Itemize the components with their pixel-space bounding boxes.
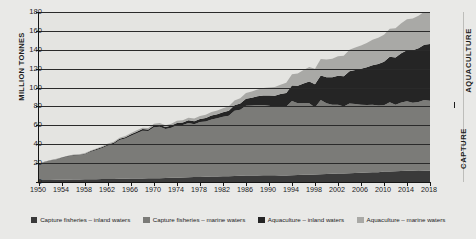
gridline: [39, 125, 430, 126]
x-axis-line: [38, 182, 430, 183]
gridline: [39, 144, 430, 145]
y-tick-label: 100: [18, 84, 42, 92]
gridline: [39, 163, 430, 164]
legend-swatch: [357, 217, 364, 224]
gridline: [39, 88, 430, 89]
legend-swatch: [258, 217, 265, 224]
y-tick-label: 120: [18, 65, 42, 73]
gridline: [39, 69, 430, 70]
chart-legend: Capture fisheries – inland watersCapture…: [0, 212, 476, 228]
y-tick-label: 40: [18, 140, 42, 148]
legend-item[interactable]: Capture fisheries – inland waters: [31, 217, 131, 224]
side-label-aquaculture: AQUACULTURE: [464, 18, 473, 104]
y-tick-label: 60: [18, 121, 42, 129]
gridline: [39, 50, 430, 51]
legend-label: Capture fisheries – marine waters: [153, 217, 246, 223]
side-label-separator: [454, 102, 455, 108]
area-series: [39, 100, 430, 180]
legend-label: Capture fisheries – inland waters: [40, 217, 130, 223]
y-tick-label: 80: [18, 102, 42, 110]
legend-swatch: [31, 217, 38, 224]
legend-item[interactable]: Aquaculture – inland waters: [258, 217, 344, 224]
x-tick-label: 2018: [416, 186, 442, 193]
legend-item[interactable]: Aquaculture – marine waters: [357, 217, 445, 224]
y-tick-label: 140: [18, 46, 42, 54]
y-tick-label: 160: [18, 27, 42, 35]
gridline: [39, 31, 430, 32]
legend-label: Aquaculture – marine waters: [367, 217, 446, 223]
legend-swatch: [143, 217, 150, 224]
y-tick-label: 180: [18, 8, 42, 16]
stacked-area-chart: MILLION TONNES 020406080100120140160180 …: [0, 0, 476, 239]
area-series-group: [39, 12, 430, 182]
legend-label: Aquaculture – inland waters: [268, 217, 344, 223]
y-tick-label: 20: [18, 159, 42, 167]
gridline: [39, 106, 430, 107]
plot-area: [38, 12, 430, 182]
side-label-capture: CAPTURE: [459, 109, 468, 189]
side-category-labels: AQUACULTURE CAPTURE: [432, 12, 474, 182]
legend-item[interactable]: Capture fisheries – marine waters: [143, 217, 245, 224]
gridline: [39, 12, 430, 13]
